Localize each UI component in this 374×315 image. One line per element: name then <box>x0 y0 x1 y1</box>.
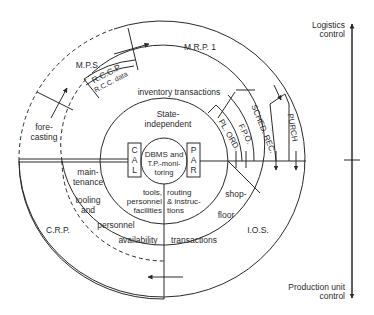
axis-top-label-2: control <box>319 29 345 39</box>
label-tools-2: personnel <box>127 197 162 206</box>
label-availability: availability <box>118 235 158 245</box>
label-tooling-1: tooling <box>75 195 100 205</box>
label-floor: floor <box>218 210 235 220</box>
label-core-3: toring <box>155 168 174 177</box>
label-pl-ord: PL. ORD. <box>217 118 242 152</box>
label-tooling-2: and <box>81 205 95 215</box>
label-inventory: inventory transactions <box>138 87 221 97</box>
label-crp: C.R.P. <box>46 225 70 235</box>
label-forecasting-2: casting <box>31 132 58 142</box>
label-core-1: DBMS and <box>145 150 184 159</box>
label-forecasting-1: fore- <box>35 122 53 132</box>
label-cal-c: C <box>131 145 137 155</box>
label-state-2: independent <box>145 119 192 129</box>
label-maintenance-2: tenance <box>73 177 104 187</box>
label-purch: PURCH <box>286 113 300 143</box>
label-par-a: A <box>191 155 197 165</box>
production-control-diagram: M.R.P. 1 M.P.S. fore- casting R.C.C.P. R… <box>0 0 374 315</box>
label-tools-3: facilities <box>134 206 162 215</box>
label-personnel: personnel <box>97 220 134 230</box>
label-routing-2: & instruc- <box>167 197 201 206</box>
label-par-p: P <box>191 145 197 155</box>
label-mrp: M.R.P. 1 <box>184 42 216 52</box>
label-maintenance-1: main- <box>77 167 98 177</box>
label-state-1: State- <box>157 109 180 119</box>
second-circle-dashed <box>61 73 92 161</box>
label-tools-1: tools, <box>143 188 162 197</box>
label-par-r: R <box>190 165 196 175</box>
label-cal-l: L <box>132 165 137 175</box>
label-mps: M.P.S. <box>76 60 100 70</box>
axis-bottom-label-2: control <box>319 291 345 301</box>
label-core-2: T.P.-moni- <box>147 159 181 168</box>
label-routing-3: tions <box>167 206 184 215</box>
label-transactions: transactions <box>171 235 217 245</box>
label-cal-a: A <box>132 155 138 165</box>
label-shop: shop- <box>225 189 246 199</box>
label-ios: I.O.S. <box>247 225 269 235</box>
label-routing-1: routing <box>167 188 191 197</box>
